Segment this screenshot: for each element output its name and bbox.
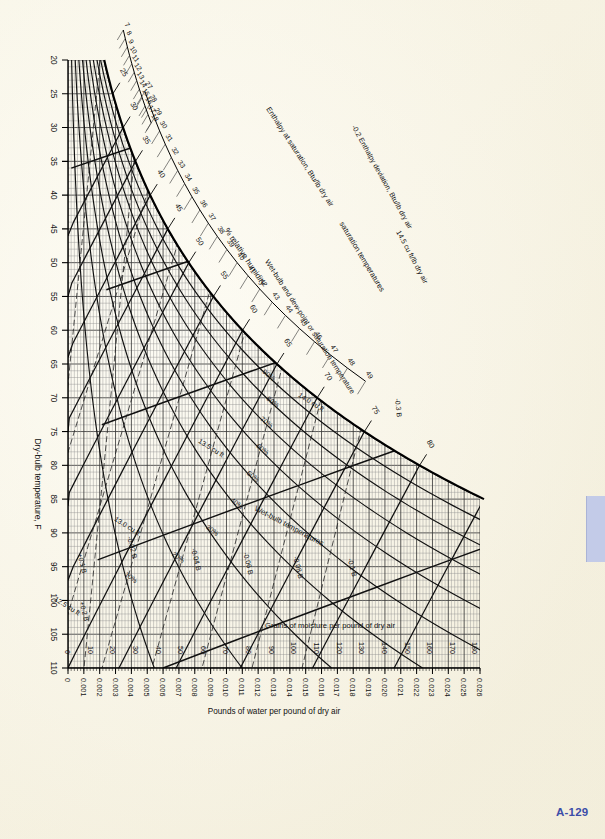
svg-text:48: 48 bbox=[347, 357, 357, 367]
volume-14-5-label: 14.5 cu ft/lb dry air bbox=[394, 229, 430, 286]
svg-text:35: 35 bbox=[141, 134, 153, 146]
dev-m03-label: -0.3 B bbox=[394, 398, 403, 418]
svg-text:0.014: 0.014 bbox=[285, 678, 294, 697]
svg-text:0.001: 0.001 bbox=[79, 678, 88, 697]
svg-text:0.026: 0.026 bbox=[475, 678, 484, 697]
svg-text:45: 45 bbox=[49, 224, 58, 234]
svg-text:110: 110 bbox=[312, 643, 321, 654]
svg-text:25: 25 bbox=[49, 89, 58, 99]
svg-text:90: 90 bbox=[49, 528, 58, 538]
svg-text:60: 60 bbox=[248, 303, 260, 315]
svg-text:70: 70 bbox=[322, 371, 334, 383]
svg-text:75: 75 bbox=[49, 427, 58, 437]
svg-text:49: 49 bbox=[365, 370, 375, 380]
svg-text:37: 37 bbox=[207, 212, 217, 222]
svg-text:0.005: 0.005 bbox=[142, 678, 151, 697]
svg-text:80: 80 bbox=[49, 461, 58, 471]
svg-text:10: 10 bbox=[86, 646, 95, 654]
svg-text:120: 120 bbox=[335, 642, 344, 654]
svg-text:0.025: 0.025 bbox=[459, 678, 468, 697]
svg-text:130: 130 bbox=[357, 642, 366, 654]
svg-text:85: 85 bbox=[49, 495, 58, 505]
svg-text:0.019: 0.019 bbox=[364, 678, 373, 697]
svg-text:80: 80 bbox=[244, 646, 253, 654]
svg-text:35: 35 bbox=[191, 185, 201, 195]
svg-text:60: 60 bbox=[199, 646, 208, 654]
svg-text:0.009: 0.009 bbox=[206, 678, 215, 697]
psychrometric-chart-rotated-container: 2025303540455055606570758085909510010511… bbox=[24, 8, 498, 732]
svg-text:32: 32 bbox=[170, 146, 180, 156]
svg-text:36: 36 bbox=[199, 199, 209, 209]
psychrometric-chart: 2025303540455055606570758085909510010511… bbox=[24, 8, 498, 732]
svg-text:95: 95 bbox=[49, 562, 58, 572]
svg-text:30: 30 bbox=[159, 119, 169, 129]
svg-text:31: 31 bbox=[164, 133, 174, 143]
svg-text:0.022: 0.022 bbox=[412, 678, 421, 697]
svg-text:35: 35 bbox=[49, 157, 58, 167]
svg-text:75: 75 bbox=[370, 404, 382, 416]
svg-text:0.008: 0.008 bbox=[190, 678, 199, 697]
svg-text:0.021: 0.021 bbox=[396, 678, 405, 697]
svg-text:0.016: 0.016 bbox=[317, 678, 326, 697]
svg-text:25: 25 bbox=[118, 67, 130, 79]
svg-text:30: 30 bbox=[49, 123, 58, 133]
svg-text:20: 20 bbox=[49, 55, 58, 65]
svg-text:Pounds of water per pound of d: Pounds of water per pound of dry air bbox=[208, 707, 341, 716]
svg-text:saturation temperatures: saturation temperatures bbox=[338, 220, 387, 294]
svg-text:8: 8 bbox=[125, 30, 133, 37]
volume-13-0-label: 13.0 cu ft bbox=[113, 515, 141, 536]
svg-text:50: 50 bbox=[176, 646, 185, 654]
svg-text:0.003: 0.003 bbox=[111, 678, 120, 697]
svg-text:70: 70 bbox=[49, 393, 58, 403]
svg-text:0.017: 0.017 bbox=[332, 678, 341, 697]
svg-text:0.012: 0.012 bbox=[253, 678, 262, 697]
enthalpy-at-saturation-label: Enthalpy at saturation, Btu/lb dry air bbox=[264, 105, 336, 209]
svg-text:80: 80 bbox=[425, 438, 437, 450]
svg-text:70: 70 bbox=[221, 646, 230, 654]
svg-text:40: 40 bbox=[155, 168, 167, 180]
dev-p01-label: +0.1 B bbox=[77, 553, 89, 574]
svg-text:0.018: 0.018 bbox=[348, 678, 357, 697]
svg-text:160: 160 bbox=[425, 642, 434, 654]
dev-m006-label: -0.06 B bbox=[242, 552, 254, 576]
svg-text:0.010: 0.010 bbox=[221, 678, 230, 697]
svg-text:140: 140 bbox=[380, 642, 389, 654]
svg-text:43: 43 bbox=[271, 291, 281, 301]
dev-m008-label: -0.08 B bbox=[292, 556, 304, 580]
svg-text:0.013: 0.013 bbox=[269, 678, 278, 697]
svg-text:65: 65 bbox=[282, 337, 294, 349]
svg-text:34: 34 bbox=[184, 172, 194, 182]
page-number: A-129 bbox=[556, 806, 588, 818]
svg-text:0.023: 0.023 bbox=[427, 678, 436, 697]
svg-text:65: 65 bbox=[49, 359, 58, 369]
svg-text:50: 50 bbox=[49, 258, 58, 268]
svg-text:55: 55 bbox=[49, 292, 58, 302]
svg-text:7: 7 bbox=[123, 21, 131, 28]
svg-text:170: 170 bbox=[448, 642, 457, 654]
svg-text:Dry-bulb temperature, F: Dry-bulb temperature, F bbox=[33, 438, 43, 529]
svg-text:0.024: 0.024 bbox=[443, 678, 452, 697]
svg-text:150: 150 bbox=[403, 642, 412, 654]
svg-text:0.004: 0.004 bbox=[126, 678, 135, 697]
svg-text:40: 40 bbox=[154, 646, 163, 654]
svg-text:55: 55 bbox=[219, 269, 231, 281]
svg-text:0: 0 bbox=[63, 678, 72, 682]
svg-text:180: 180 bbox=[470, 642, 479, 654]
svg-text:40: 40 bbox=[49, 191, 58, 201]
svg-text:0.020: 0.020 bbox=[380, 678, 389, 697]
svg-text:60: 60 bbox=[49, 326, 58, 336]
svg-text:90: 90 bbox=[267, 646, 276, 654]
svg-text:50: 50 bbox=[194, 235, 206, 247]
svg-text:30: 30 bbox=[131, 646, 140, 654]
svg-text:0.006: 0.006 bbox=[158, 678, 167, 697]
svg-text:0.011: 0.011 bbox=[237, 678, 246, 696]
svg-text:110: 110 bbox=[49, 661, 58, 674]
enthalpy-deviation-label: -0.2 Enthalpy deviation, Btu/lb dry air bbox=[350, 123, 415, 231]
svg-text:45: 45 bbox=[173, 202, 185, 214]
svg-text:20: 20 bbox=[108, 646, 117, 654]
dev-m004-label: -0.04 B bbox=[190, 548, 202, 572]
svg-text:33: 33 bbox=[177, 159, 187, 169]
svg-text:105: 105 bbox=[49, 627, 58, 641]
svg-text:100: 100 bbox=[289, 642, 298, 654]
relative-humidity-label: % relative humidity bbox=[223, 226, 268, 287]
